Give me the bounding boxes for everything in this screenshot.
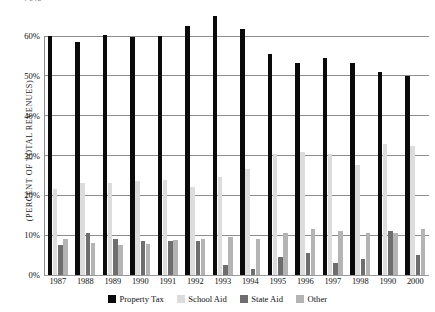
- bar-state: [416, 255, 421, 275]
- bar-property: [213, 16, 218, 275]
- bar-state: [306, 253, 311, 275]
- x-axis-tick-label: 1987: [44, 277, 72, 286]
- bar-other: [421, 229, 426, 275]
- clipped-top-ytick-label: 70%: [24, 0, 41, 3]
- bar-other: [63, 239, 68, 275]
- legend-item[interactable]: Other: [296, 294, 327, 304]
- x-axis-tick-label: 1990: [127, 277, 155, 286]
- bar-property: [350, 63, 355, 275]
- bar-school: [108, 183, 113, 275]
- y-axis-tick-label: 20%: [24, 190, 40, 200]
- x-axis-tick-label: 1989: [99, 277, 127, 286]
- bar-state: [333, 263, 338, 275]
- bar-school: [135, 181, 140, 275]
- bar-group: [75, 36, 95, 275]
- bar-other: [228, 237, 233, 275]
- bar-school: [53, 189, 58, 275]
- bar-chart: 70% (PERCENT OF TOTAL REVENUES) 0%10%20%…: [0, 0, 435, 312]
- school-aid-swatch: [177, 295, 185, 303]
- bar-state: [141, 241, 146, 275]
- bar-state: [251, 269, 256, 275]
- y-axis-tick-label: 60%: [24, 31, 40, 41]
- bar-group: [240, 36, 260, 275]
- x-axis-tick-label: 1988: [72, 277, 100, 286]
- bar-school: [383, 144, 388, 275]
- legend-item[interactable]: State Aid: [240, 294, 283, 304]
- y-axis-tick-label: 40%: [24, 111, 40, 121]
- bar-other: [201, 239, 206, 275]
- x-axis-tick-label: 1992: [182, 277, 210, 286]
- bar-state: [361, 259, 366, 275]
- legend-label: State Aid: [251, 294, 283, 304]
- bar-school: [273, 154, 278, 275]
- bar-group: [268, 36, 288, 275]
- x-axis-tick-label: 1991: [154, 277, 182, 286]
- bar-state: [113, 239, 118, 275]
- property-tax-swatch: [108, 295, 116, 303]
- bar-group: [130, 36, 150, 275]
- x-axis-tick-label: 1996: [292, 277, 320, 286]
- bar-other: [173, 240, 178, 275]
- legend-item[interactable]: School Aid: [177, 294, 227, 304]
- plot-area: 0%10%20%30%40%50%60%19871988198919901991…: [44, 36, 429, 275]
- x-axis-tick-label: 1993: [209, 277, 237, 286]
- bar-state: [86, 233, 91, 275]
- bar-school: [410, 146, 415, 275]
- bar-school: [190, 187, 195, 275]
- bar-school: [218, 177, 223, 275]
- bar-group: [378, 36, 398, 275]
- bar-property: [75, 42, 80, 275]
- bar-property: [130, 37, 135, 275]
- bar-property: [48, 36, 53, 275]
- bar-other: [311, 229, 316, 275]
- chart-legend: Property TaxSchool AidState AidOther: [0, 294, 435, 304]
- legend-label: School Aid: [188, 294, 226, 304]
- bar-other: [91, 243, 96, 275]
- bar-property: [158, 36, 163, 275]
- bar-group: [213, 36, 233, 275]
- bar-other: [393, 233, 398, 275]
- x-axis-tick-label: 2000: [402, 277, 430, 286]
- bar-group: [350, 36, 370, 275]
- bar-other: [366, 233, 371, 275]
- bar-other: [146, 244, 151, 275]
- bar-property: [103, 35, 108, 275]
- bar-property: [240, 29, 245, 275]
- bar-property: [405, 76, 410, 275]
- bar-school: [300, 152, 305, 275]
- bar-state: [196, 241, 201, 275]
- bar-group: [48, 36, 68, 275]
- other-swatch: [296, 295, 304, 303]
- bar-other: [338, 231, 343, 275]
- bar-property: [378, 72, 383, 275]
- bar-state: [223, 265, 228, 275]
- bar-group: [323, 36, 343, 275]
- bar-state: [168, 241, 173, 275]
- legend-item[interactable]: Property Tax: [108, 294, 164, 304]
- x-axis-tick-label: 1994: [237, 277, 265, 286]
- legend-label: Property Tax: [119, 294, 163, 304]
- bar-school: [355, 165, 360, 275]
- bar-group: [158, 36, 178, 275]
- y-axis-tick-label: 30%: [24, 151, 40, 161]
- x-axis-tick-label: 1990: [374, 277, 402, 286]
- bar-school: [80, 183, 85, 275]
- y-axis-tick-label: 10%: [24, 230, 40, 240]
- bar-property: [268, 54, 273, 275]
- x-axis-tick-label: 1997: [319, 277, 347, 286]
- bar-school: [245, 169, 250, 275]
- bar-property: [295, 63, 300, 275]
- bar-other: [283, 233, 288, 275]
- bar-state: [388, 231, 393, 275]
- legend-label: Other: [307, 294, 327, 304]
- bar-group: [405, 36, 425, 275]
- state-aid-swatch: [240, 295, 248, 303]
- bar-group: [295, 36, 315, 275]
- x-axis-tick-label: 1995: [264, 277, 292, 286]
- x-axis-tick-label: 1998: [347, 277, 375, 286]
- y-axis-tick-label: 50%: [24, 71, 40, 81]
- bar-other: [118, 245, 123, 275]
- bar-school: [328, 154, 333, 275]
- bar-group: [185, 36, 205, 275]
- bar-property: [185, 26, 190, 275]
